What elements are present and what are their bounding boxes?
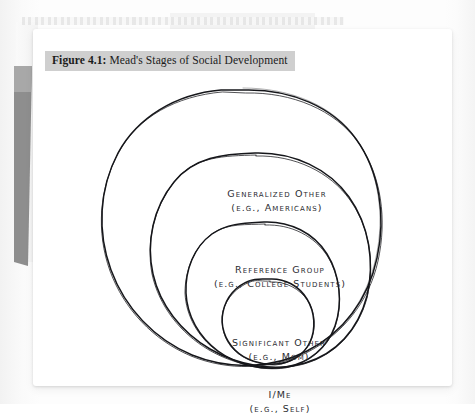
perforation-strip <box>22 17 344 25</box>
figure-caption: Figure 4.1: Mead's Stages of Social Deve… <box>45 51 295 71</box>
label-reference-group-example: (e.g., College Students) <box>214 277 346 291</box>
book-page: Figure 4.1: Mead's Stages of Social Deve… <box>33 29 452 386</box>
label-significant-other-example: (e.g., Mom) <box>232 350 326 364</box>
label-i-me-title: I/Me <box>250 388 311 402</box>
label-generalized-other-title: Generalized Other <box>227 187 326 201</box>
label-significant-other-title: Significant Other <box>232 336 326 350</box>
label-generalized-other-example: (e.g., Americans) <box>227 201 326 215</box>
label-reference-group-title: Reference Group <box>214 263 346 277</box>
caption-title: Mead's Stages of Social Development <box>110 54 288 66</box>
circle-generalized-other <box>101 88 382 367</box>
label-reference-group: Reference Group (e.g., College Students) <box>214 263 346 291</box>
nested-circles-diagram: Generalized Other (e.g., Americans) Refe… <box>33 77 452 377</box>
caption-number: Figure 4.1: <box>52 54 107 66</box>
label-i-me-example: (e.g., Self) <box>250 402 311 416</box>
label-significant-other: Significant Other (e.g., Mom) <box>232 336 326 364</box>
label-i-me: I/Me (e.g., Self) <box>250 388 311 416</box>
label-generalized-other: Generalized Other (e.g., Americans) <box>227 187 326 215</box>
